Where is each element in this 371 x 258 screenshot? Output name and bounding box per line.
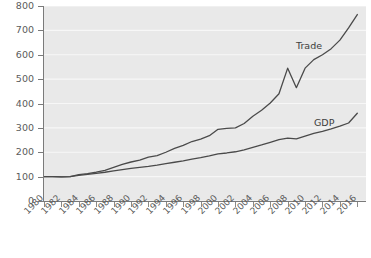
series-label-gdp: GDP <box>314 117 334 128</box>
series-lines <box>44 6 366 201</box>
y-tick-label: 200 <box>16 147 34 157</box>
y-tick-mark <box>38 79 43 80</box>
y-tick-mark <box>38 152 43 153</box>
y-tick-mark <box>38 30 43 31</box>
y-tick-mark <box>38 55 43 56</box>
y-tick-mark <box>38 6 43 7</box>
y-tick-label: 700 <box>16 25 34 35</box>
y-axis <box>43 6 44 202</box>
chart-container: 0100200300400500600700800 19801982198419… <box>0 0 371 258</box>
y-tick-mark <box>38 128 43 129</box>
x-tick-mark <box>357 202 358 207</box>
y-tick-label: 500 <box>16 74 34 84</box>
y-tick-label: 100 <box>16 172 34 182</box>
y-tick-label: 800 <box>16 1 34 11</box>
series-path-gdp <box>44 113 357 177</box>
y-tick-label: 300 <box>16 123 34 133</box>
y-tick-mark <box>38 177 43 178</box>
y-tick-label: 600 <box>16 50 34 60</box>
series-path-trade <box>44 15 357 177</box>
y-tick-label: 400 <box>16 99 34 109</box>
y-tick-mark <box>38 104 43 105</box>
plot-area <box>44 6 366 201</box>
series-label-trade: Trade <box>296 40 322 51</box>
